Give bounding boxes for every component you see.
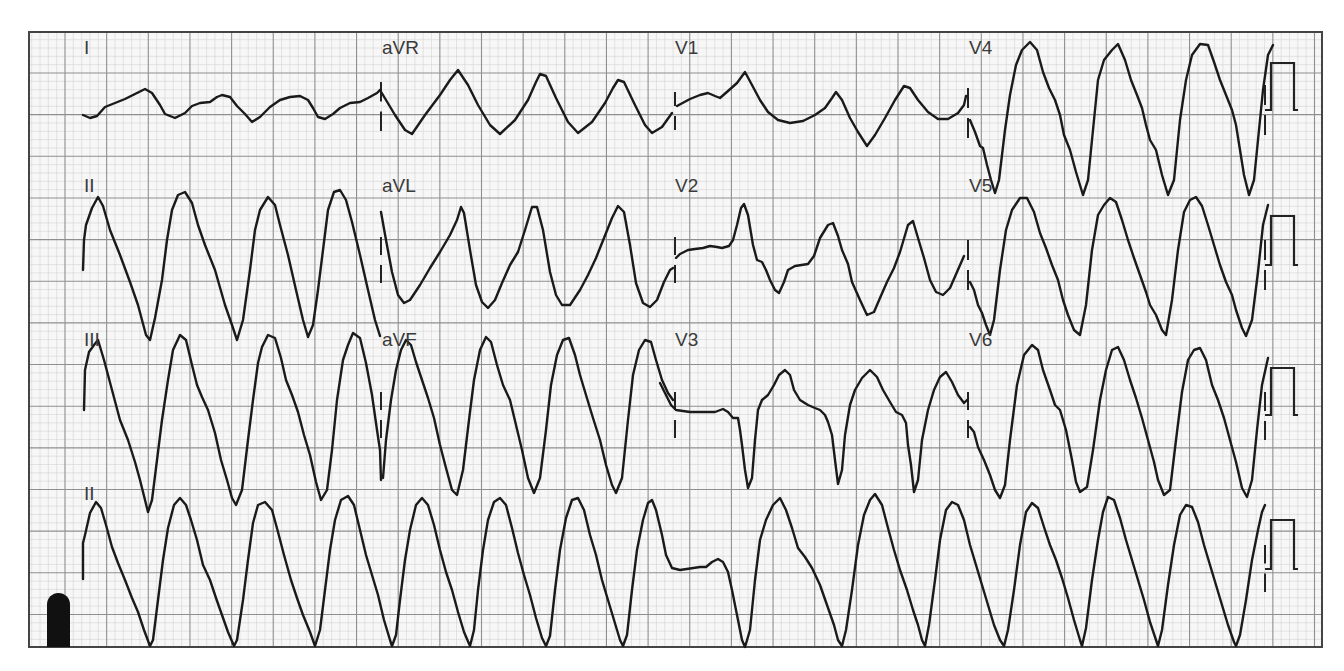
lead-label-avr: aVR — [382, 38, 419, 57]
lead-label-v4: V4 — [969, 38, 992, 57]
lead-label-avf: aVF — [382, 330, 417, 349]
lead-label-v3: V3 — [675, 330, 698, 349]
lead-label-ii: II — [84, 176, 95, 195]
lead-label-v5: V5 — [969, 176, 992, 195]
lead-label-iii: III — [84, 330, 100, 349]
lead-label-avl: aVL — [382, 176, 416, 195]
lead-label-v6: V6 — [969, 330, 992, 349]
lead-label-ii: II — [84, 484, 95, 503]
black-marker-tab — [47, 593, 70, 647]
lead-label-v2: V2 — [675, 176, 698, 195]
lead-label-v1: V1 — [675, 38, 698, 57]
ecg-chart — [0, 0, 1344, 671]
lead-label-i: I — [84, 38, 89, 57]
